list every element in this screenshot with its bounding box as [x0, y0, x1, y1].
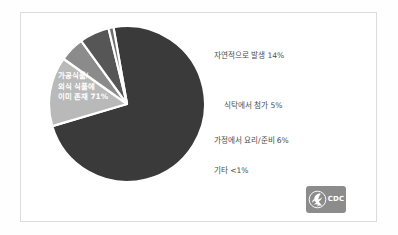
pie-chart-svg [47, 24, 207, 184]
pie-chart [47, 24, 207, 184]
cdc-wordmark-text: CDC [328, 196, 345, 203]
cdc-logo: CDC [306, 186, 346, 213]
hhs-eagle-icon [308, 190, 327, 209]
chart-figure: 가공식품/ 외식 식품에 이미 존재 71% 자연적으로 발생 14% 식탁에서… [0, 0, 398, 235]
pie-callout-natural-occurring: 자연적으로 발생 14% [214, 51, 284, 61]
pie-callout-other: 기타 <1% [214, 166, 249, 176]
pie-callout-added-at-table: 식탁에서 첨가 5% [224, 101, 282, 111]
cdc-wordmark: CDC [328, 196, 345, 204]
pie-callout-home-cooking: 가정에서 요리/준비 6% [214, 136, 289, 146]
